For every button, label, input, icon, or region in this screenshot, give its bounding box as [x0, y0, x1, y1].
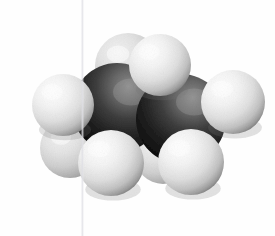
hydrogen-top-center-atom [129, 34, 191, 100]
hydrogen-right-highlight [211, 81, 233, 98]
hydrogen-top-center-highlight [138, 44, 159, 60]
hydrogen-bottom-left-atom [78, 130, 144, 201]
hydrogen-right-atom [201, 70, 265, 138]
hydrogen-left-atom [32, 74, 94, 140]
hydrogen-bottom-right-highlight [168, 139, 190, 156]
molecule-canvas [0, 0, 275, 236]
hydrogen-left-highlight [41, 84, 62, 100]
hydrogen-bottom-left-sphere [78, 130, 144, 196]
hydrogen-bottom-left-highlight [88, 140, 110, 157]
hydrogen-left-sphere [32, 74, 94, 136]
hydrogen-right-sphere [201, 70, 265, 134]
molecular-model-figure: Ethane C2H6 [0, 0, 275, 236]
hydrogen-bottom-right-sphere [158, 129, 224, 195]
hydrogen-back-upper-left-highlight [107, 45, 129, 62]
hydrogen-top-center-sphere [129, 34, 191, 96]
hydrogen-bottom-right-atom [158, 129, 224, 200]
